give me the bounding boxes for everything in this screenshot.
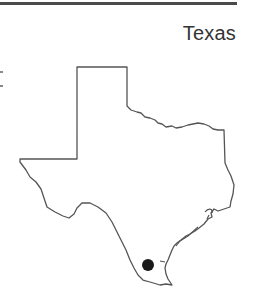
texas-map [0,0,255,307]
location-marker-icon [142,259,154,271]
texas-outline [20,67,234,285]
barrier-islands [160,227,198,262]
